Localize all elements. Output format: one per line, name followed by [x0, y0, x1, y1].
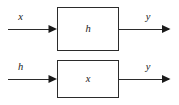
upper-input-arrowhead [49, 25, 58, 33]
diagram-canvas: x h y h x y [0, 0, 179, 105]
upper-output-label: y [145, 11, 151, 22]
upper-output-arrowhead [162, 25, 171, 33]
upper-system-group: x h y [8, 8, 171, 51]
lower-input-label: h [18, 61, 23, 72]
lower-output-label: y [145, 61, 151, 72]
upper-input-label: x [17, 11, 23, 22]
lower-input-arrowhead [49, 75, 58, 83]
lower-output-arrowhead [162, 75, 171, 83]
block-diagram-figure: x h y h x y [0, 0, 179, 105]
lower-block-label: x [85, 73, 91, 84]
lower-system-group: h x y [8, 61, 171, 98]
upper-block-label: h [85, 23, 90, 34]
